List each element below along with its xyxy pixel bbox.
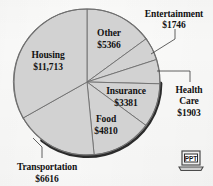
- pie-label-food-value: $4810: [94, 126, 118, 136]
- pie-label-health-care-value: $1903: [177, 108, 201, 118]
- pie-label-other-name: Other: [97, 28, 122, 38]
- leader-line-health-care: [157, 71, 190, 82]
- pie-label-insurance-name: Insurance: [106, 86, 146, 96]
- ppt-badge-text: PPT: [185, 155, 198, 162]
- pie-label-transportation-name: Transportation: [17, 162, 78, 172]
- pie-callout-entertainment: Entertainment $1746: [145, 9, 204, 54]
- pie-label-housing-value: $11,713: [33, 62, 63, 72]
- pie-label-entertainment-value: $1746: [162, 20, 186, 30]
- pie-label-housing-name: Housing: [31, 50, 64, 60]
- pie-label-insurance-value: $3381: [114, 98, 138, 108]
- pie-chart-figure: Housing $11,713 Other $5366 Insurance $3…: [0, 0, 213, 186]
- pie-label-health-care-line2: Care: [179, 96, 198, 106]
- ppt-laptop-icon[interactable]: PPT: [178, 150, 204, 172]
- pie-label-entertainment-name: Entertainment: [145, 9, 204, 19]
- pie-label-transportation-value: $6616: [35, 174, 59, 184]
- pie-callout-health-care: Health Care $1903: [157, 71, 203, 118]
- pie-label-food-name: Food: [96, 114, 117, 124]
- leader-line-entertainment: [151, 29, 175, 54]
- pie-label-health-care-line1: Health: [176, 85, 204, 95]
- pie-label-other-value: $5366: [97, 40, 121, 50]
